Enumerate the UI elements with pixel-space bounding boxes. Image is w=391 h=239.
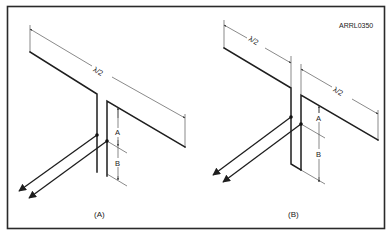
dimension-line-half-wave-left bbox=[265, 48, 291, 63]
dimension-line-half-wave-right bbox=[301, 69, 332, 87]
feedline-conductor-1 bbox=[213, 117, 291, 175]
dipole-right-element bbox=[301, 95, 378, 170]
feedline-conductor-2 bbox=[29, 141, 107, 198]
dipole-left-element bbox=[224, 48, 301, 170]
panel-b: λ/2 λ/2 A B (B) bbox=[213, 20, 378, 219]
dimension-line-half-wave bbox=[112, 77, 185, 118]
panel-a-caption: (A) bbox=[94, 210, 105, 219]
dipole-left-element bbox=[30, 52, 97, 172]
segment-a-tick bbox=[301, 124, 325, 138]
feedline-conductor-2 bbox=[223, 124, 301, 182]
feed-point-1 bbox=[289, 115, 293, 119]
panel-a: λ/2 A B (A) bbox=[19, 25, 185, 219]
dimension-line-half-wave-right bbox=[352, 99, 378, 114]
segment-b-label: B bbox=[316, 150, 321, 159]
half-wave-label-right: λ/2 bbox=[331, 85, 344, 98]
segment-b-tick bbox=[301, 170, 325, 184]
figure-id-label: ARRL0350 bbox=[339, 22, 373, 29]
feed-point-1 bbox=[95, 133, 99, 137]
antenna-feed-diagram: ARRL0350 λ/2 A B (A) bbox=[0, 0, 391, 239]
figure-border bbox=[8, 7, 385, 229]
segment-b-label: B bbox=[115, 159, 120, 168]
segment-a-label: A bbox=[316, 114, 321, 123]
segment-a-tick bbox=[107, 141, 127, 153]
segment-a-label: A bbox=[115, 128, 120, 137]
segment-b-tick bbox=[107, 174, 127, 186]
half-wave-label-left: λ/2 bbox=[247, 34, 260, 47]
feed-point-2 bbox=[299, 122, 303, 126]
feedline-conductor-1 bbox=[19, 135, 97, 191]
half-wave-label: λ/2 bbox=[91, 65, 104, 78]
feed-point-2 bbox=[105, 139, 109, 143]
dimension-line-half-wave bbox=[30, 29, 92, 66]
panel-b-caption: (B) bbox=[288, 210, 299, 219]
dimension-line-half-wave-left bbox=[224, 25, 247, 38]
